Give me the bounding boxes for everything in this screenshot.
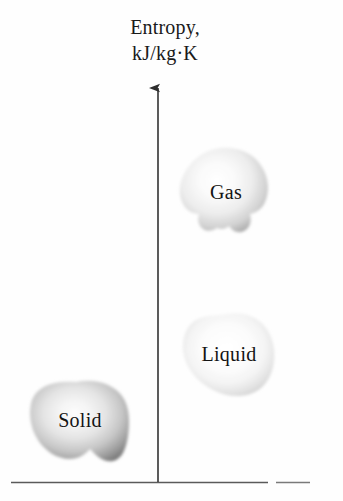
liquid-blob [183,313,274,396]
gas-blob [180,148,268,232]
solid-blob [30,381,129,462]
entropy-phase-figure: Entropy, kJ/kg·K Gas Liquid Solid [0,0,343,501]
figure-canvas [0,0,343,501]
